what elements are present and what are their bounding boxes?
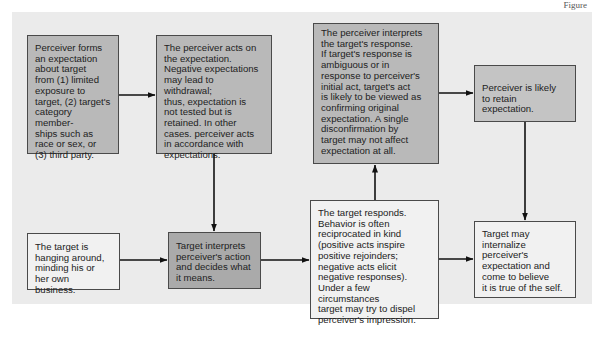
arrows-layer xyxy=(0,0,601,337)
